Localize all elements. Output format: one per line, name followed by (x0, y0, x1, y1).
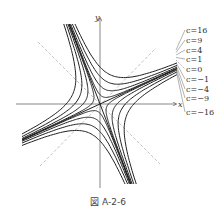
y-axis-label: y (94, 13, 100, 22)
level-label: c=0 (186, 65, 202, 74)
level-label: c=9 (186, 36, 202, 45)
x-axis-label: x (178, 100, 183, 109)
level-label: c=16 (186, 26, 207, 35)
axes: x y (16, 13, 183, 188)
level-label: c=1 (186, 55, 202, 64)
level-label: c=−1 (186, 75, 209, 84)
figure-caption: 図 A-2-6 (0, 195, 216, 208)
level-curve (0, 0, 94, 218)
leader-line (176, 30, 185, 50)
level-curve (0, 0, 76, 218)
level-label: c=−16 (186, 108, 214, 117)
level-curve (0, 0, 82, 218)
level-label: c=4 (186, 46, 202, 55)
leader-line (176, 68, 185, 99)
contour-plot: x y c=16c=9c=4c=1c=0c=−1c=−4c=−9c=−16 (0, 0, 224, 218)
leader-line (176, 58, 185, 60)
level-label: c=−4 (186, 85, 209, 94)
level-label: c=−9 (186, 94, 209, 103)
